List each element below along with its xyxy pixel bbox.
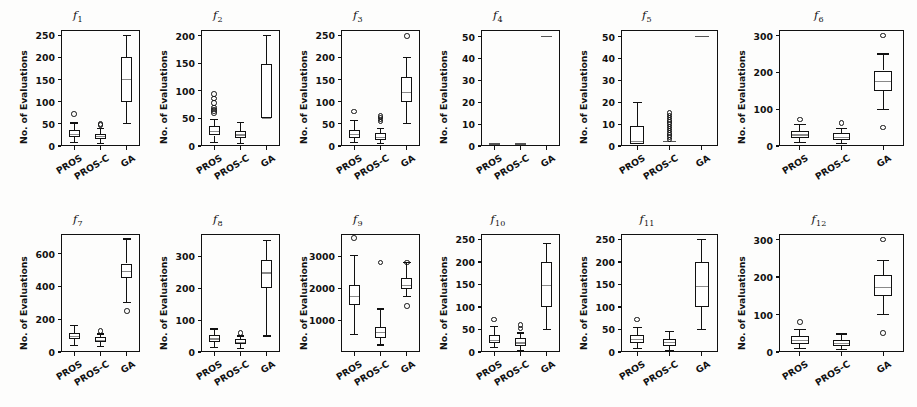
panel-f7: f7No. of Evaluations0200400600PROSPROS-C…: [8, 212, 148, 407]
boxplot-f11-ga: [568, 212, 726, 407]
whisker-lower: [883, 91, 884, 109]
x-tickmark-ga: [126, 146, 127, 150]
boxplot-f6-ga: [726, 8, 912, 198]
median-line: [875, 287, 891, 288]
x-tickmark-ga: [406, 146, 407, 150]
outlier-marker: [880, 125, 886, 131]
cap-upper: [123, 238, 131, 239]
boxplot-figure-grid: f1No. of Evaluations050100150200250PROSP…: [0, 0, 917, 407]
box-flat-line: [695, 36, 709, 37]
x-tickmark-ga: [406, 352, 407, 356]
box-iqr: [401, 278, 412, 289]
whisker-upper: [126, 239, 127, 264]
cap-upper: [543, 243, 551, 244]
whisker-lower: [266, 288, 267, 336]
boxplot-f12-ga: [726, 212, 912, 407]
whisker-lower: [546, 307, 547, 330]
whisker-upper: [546, 244, 547, 262]
median-line: [875, 81, 891, 82]
median-line: [402, 92, 411, 93]
panel-f6: f6No. of Evaluations0100200300PROSPROS-C…: [726, 8, 912, 198]
outlier-marker: [880, 330, 886, 336]
median-line: [122, 271, 131, 272]
median-line: [262, 272, 271, 273]
outlier-marker: [404, 33, 410, 39]
cap-lower: [877, 109, 889, 110]
outlier-marker: [880, 237, 886, 243]
cap-lower: [877, 314, 889, 315]
cap-lower: [403, 123, 411, 124]
whisker-upper: [406, 57, 407, 77]
cap-lower: [123, 123, 131, 124]
panel-f3: f3No. of Evaluations050100150200250PROSP…: [288, 8, 428, 198]
whisker-lower: [406, 102, 407, 124]
whisker-upper: [126, 35, 127, 57]
box-iqr: [261, 260, 272, 288]
whisker-lower: [883, 296, 884, 315]
cap-upper: [697, 239, 706, 240]
boxplot-f4-ga: [428, 8, 568, 198]
panel-f8: f8No. of Evaluations0100200300PROSPROS-C…: [148, 212, 288, 407]
outlier-marker: [880, 33, 886, 39]
median-line: [402, 285, 411, 286]
cap-lower: [697, 329, 706, 330]
cap-upper: [263, 35, 271, 36]
x-tickmark-ga: [266, 146, 267, 150]
box-iqr: [261, 64, 272, 118]
box-iqr: [695, 262, 709, 307]
cap-upper: [877, 53, 889, 54]
x-tickmark-ga: [546, 352, 547, 356]
whisker-upper: [701, 239, 702, 262]
median-line: [542, 285, 551, 286]
cap-upper: [263, 240, 271, 241]
median-line: [696, 286, 708, 287]
x-tickmark-ga: [546, 146, 547, 150]
panel-f9: f9No. of Evaluations100020003000PROSPROS…: [288, 212, 428, 407]
boxplot-f9-ga: [288, 212, 428, 407]
x-tickmark-ga: [883, 146, 884, 150]
median-line: [262, 118, 271, 119]
outlier-marker: [124, 308, 130, 314]
boxplot-f3-ga: [288, 8, 428, 198]
panel-f10: f10No. of Evaluations050100150200250PROS…: [428, 212, 568, 407]
x-tickmark-ga: [126, 352, 127, 356]
panel-f5: f5No. of Evaluations01020304050PROSPROS-…: [568, 8, 726, 198]
box-flat-line: [541, 36, 552, 37]
box-iqr: [874, 275, 892, 296]
cap-lower: [123, 302, 131, 303]
panel-f11: f11No. of Evaluations050100150200250PROS…: [568, 212, 726, 407]
cap-lower: [543, 329, 551, 330]
x-tickmark-ga: [883, 352, 884, 356]
whisker-upper: [883, 260, 884, 275]
boxplot-f10-ga: [428, 212, 568, 407]
cap-lower: [403, 296, 411, 297]
panel-f2: f2No. of Evaluations050100150200PROSPROS…: [148, 8, 288, 198]
boxplot-f2-ga: [148, 8, 288, 198]
whisker-upper: [266, 240, 267, 260]
cap-upper: [403, 57, 411, 58]
panel-f4: f4No. of Evaluations01020304050PROSPROS-…: [428, 8, 568, 198]
whisker-upper: [266, 36, 267, 65]
panel-f12: f12No. of Evaluations0100200300PROSPROS-…: [726, 212, 912, 407]
whisker-lower: [701, 307, 702, 330]
cap-upper: [123, 35, 131, 36]
boxplot-f1-ga: [8, 8, 148, 198]
boxplot-f7-ga: [8, 212, 148, 407]
whisker-lower: [126, 278, 127, 303]
x-tickmark-ga: [701, 352, 702, 356]
whisker-upper: [883, 54, 884, 71]
cap-upper: [877, 260, 889, 261]
cap-lower: [263, 335, 271, 336]
median-line: [122, 79, 131, 80]
outlier-marker: [404, 260, 410, 266]
panel-f1: f1No. of Evaluations050100150200250PROSP…: [8, 8, 148, 198]
x-tickmark-ga: [266, 352, 267, 356]
box-iqr: [401, 77, 412, 101]
boxplot-f8-ga: [148, 212, 288, 407]
whisker-lower: [126, 102, 127, 124]
outlier-marker: [404, 303, 410, 309]
x-tickmark-ga: [701, 146, 702, 150]
boxplot-f5-ga: [568, 8, 726, 198]
